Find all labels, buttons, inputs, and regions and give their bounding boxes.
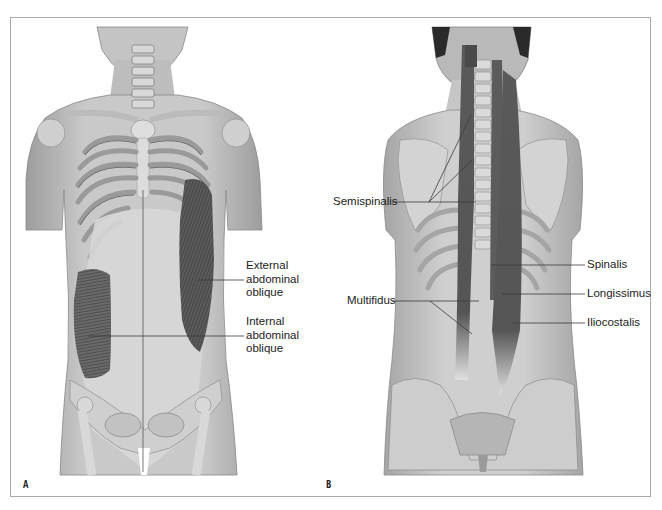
anatomy-illustration <box>0 0 662 510</box>
label-line: abdominal <box>246 273 316 287</box>
panel-a-figure <box>26 27 262 475</box>
internal-oblique-muscle <box>74 269 111 378</box>
label-longissimus: Longissimus <box>587 287 651 301</box>
label-line: External <box>246 259 316 273</box>
label-line: Internal <box>246 315 316 329</box>
label-semispinalis: Semispinalis <box>333 195 398 209</box>
label-internal-abdominal-oblique: Internal abdominal oblique <box>246 315 316 356</box>
panel-b-figure <box>383 27 583 475</box>
label-line: oblique <box>246 286 316 300</box>
panel-letter-a: A <box>23 479 28 490</box>
label-external-abdominal-oblique: External abdominal oblique <box>246 259 316 300</box>
label-line: abdominal <box>246 329 316 343</box>
semispinalis-capitis-muscle <box>465 45 477 67</box>
panel-letter-b: B <box>326 479 331 490</box>
label-iliocostalis: Iliocostalis <box>587 316 640 330</box>
label-line: oblique <box>246 342 316 356</box>
label-spinalis: Spinalis <box>587 258 627 272</box>
label-multifidus: Multifidus <box>347 294 396 308</box>
sacrum <box>450 413 515 456</box>
